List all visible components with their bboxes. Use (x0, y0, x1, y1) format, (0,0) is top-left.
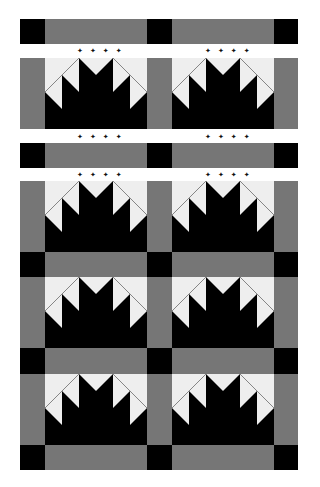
sashing-bar (172, 143, 274, 168)
leaf-block-icon (45, 374, 147, 445)
cornerstone (274, 143, 298, 168)
leaf-block-icon (45, 58, 147, 129)
vertical-sashing (274, 374, 298, 445)
sashing-bar (45, 19, 147, 44)
cornerstone (20, 445, 45, 470)
sashing-strip-2 (20, 143, 298, 168)
seam-marker-dots: ✦ ✦ ✦ ✦ (205, 47, 252, 55)
quilt-block (172, 58, 274, 129)
vertical-sashing (147, 181, 172, 252)
leaf-block-icon (172, 181, 274, 252)
sashing-bar (172, 19, 274, 44)
vertical-sashing (20, 277, 45, 348)
sashing-bar (45, 252, 147, 277)
vertical-sashing (20, 58, 45, 129)
quilt-block (45, 58, 147, 129)
cornerstone (147, 348, 172, 374)
vertical-sashing (147, 277, 172, 348)
cornerstone (147, 19, 172, 44)
quilt-block (172, 374, 274, 445)
cornerstone (20, 252, 45, 277)
seam-marker-dots: ✦ ✦ ✦ ✦ (77, 133, 124, 141)
cornerstone (20, 19, 45, 44)
cornerstone (147, 445, 172, 470)
cornerstone (274, 445, 298, 470)
cornerstone (20, 348, 45, 374)
sashing-bar (172, 445, 274, 470)
leaf-block-icon (172, 58, 274, 129)
vertical-sashing (274, 58, 298, 129)
cornerstone (274, 348, 298, 374)
assembled-quilt (20, 181, 298, 470)
sashing-bar (45, 445, 147, 470)
seam-marker-dots: ✦ ✦ ✦ ✦ (77, 47, 124, 55)
seam-marker-dots: ✦ ✦ ✦ ✦ (205, 133, 252, 141)
vertical-sashing (147, 58, 172, 129)
sashing-row-bottom (20, 445, 298, 470)
cornerstone (147, 143, 172, 168)
leaf-block-icon (172, 374, 274, 445)
sashing-strip-top (20, 19, 298, 44)
vertical-sashing (20, 181, 45, 252)
sashing-bar (172, 348, 274, 374)
leaf-block-icon (45, 277, 147, 348)
cornerstone (274, 19, 298, 44)
quilt-block (45, 181, 147, 252)
sashing-bar (172, 252, 274, 277)
cornerstone (147, 252, 172, 277)
vertical-sashing (274, 277, 298, 348)
sashing-row (20, 348, 298, 374)
quilt-block (45, 277, 147, 348)
quilt-block (172, 277, 274, 348)
sashing-row (20, 252, 298, 277)
sashing-bar (45, 143, 147, 168)
cornerstone (274, 252, 298, 277)
quilt-block (45, 374, 147, 445)
vertical-sashing (274, 181, 298, 252)
seam-marker-dots: ✦ ✦ ✦ ✦ (77, 171, 124, 179)
seam-marker-dots: ✦ ✦ ✦ ✦ (205, 171, 252, 179)
vertical-sashing (20, 374, 45, 445)
quilt-block (172, 181, 274, 252)
leaf-block-icon (172, 277, 274, 348)
leaf-block-icon (45, 181, 147, 252)
block-row-1 (20, 58, 298, 129)
vertical-sashing (147, 374, 172, 445)
sashing-bar (45, 348, 147, 374)
cornerstone (20, 143, 45, 168)
